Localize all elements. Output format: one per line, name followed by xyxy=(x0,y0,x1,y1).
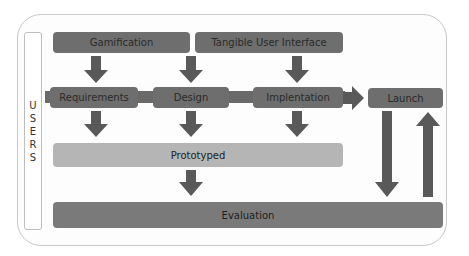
arrow-down-icon xyxy=(84,111,108,137)
arrows-layer xyxy=(0,0,469,256)
arrow-right-icon xyxy=(343,86,364,110)
arrow-down-long-icon xyxy=(375,111,399,197)
arrow-down-icon xyxy=(179,56,203,83)
arrow-down-icon xyxy=(285,56,309,83)
arrow-down-icon xyxy=(179,111,203,137)
arrow-down-icon xyxy=(285,111,309,137)
arrow-down-icon xyxy=(179,170,203,196)
arrow-down-icon xyxy=(84,56,108,83)
arrow-up-long-icon xyxy=(416,112,440,197)
